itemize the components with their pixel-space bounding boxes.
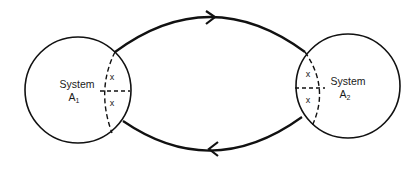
system-a2: x x System A2 [295, 34, 400, 138]
flow-a1-to-a2 [115, 11, 305, 52]
system-a1-label: System [59, 78, 94, 90]
system-a2-marker-top: x [306, 69, 311, 79]
system-a2-marker-bottom: x [306, 95, 311, 105]
system-a1-dashed-boundary [105, 52, 115, 133]
flow-a2-to-a1 [123, 117, 302, 156]
system-a2-label: System [330, 75, 365, 87]
system-a2-symbol: A2 [340, 88, 351, 101]
system-a1-symbol: A1 [69, 91, 80, 104]
system-a1: x x System A1 [25, 37, 131, 143]
arrow-left-icon [209, 142, 218, 156]
diagram-canvas: x x System A1 x x System A2 [0, 0, 420, 170]
system-a1-marker-bottom: x [110, 98, 115, 108]
system-a1-marker-top: x [110, 72, 115, 82]
system-a2-dashed-boundary [305, 52, 320, 126]
